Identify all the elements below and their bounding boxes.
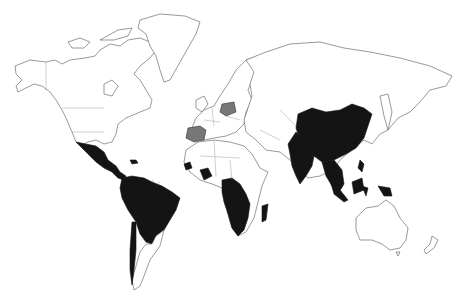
mexico-central-america [76, 142, 126, 180]
africa [184, 140, 268, 236]
caribbean [130, 160, 138, 164]
world-map [0, 0, 470, 298]
north-america [15, 28, 156, 146]
madagascar [262, 204, 268, 222]
south-america [120, 176, 180, 290]
spain [186, 126, 206, 142]
oceania [356, 200, 438, 256]
asia [244, 42, 452, 194]
